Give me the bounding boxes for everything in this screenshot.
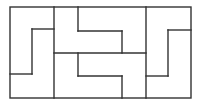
piece-boundaries (10, 7, 191, 98)
tiling-diagram (0, 0, 200, 107)
